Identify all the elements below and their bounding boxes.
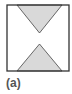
bottom-triangle [17, 44, 62, 71]
top-triangle [17, 5, 62, 33]
figure-label: (a) [6, 77, 21, 89]
